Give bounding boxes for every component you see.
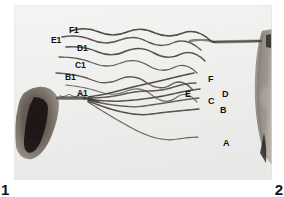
micrograph-image xyxy=(14,5,272,180)
figure-panel: F1 E1 D1 C1 B1 A1 F E D C B A 1 2 xyxy=(0,0,284,197)
fiber-label-A: A xyxy=(223,139,229,148)
fiber-label-D1: D1 xyxy=(77,44,87,53)
fiber-label-F1: F1 xyxy=(69,26,79,35)
fiber-label-B: B xyxy=(220,106,226,115)
fiber-label-F: F xyxy=(208,75,213,84)
fiber-label-E: E xyxy=(185,90,191,99)
panel-number-2: 2 xyxy=(275,182,283,197)
fiber-label-C: C xyxy=(208,97,214,106)
fiber-label-A1: A1 xyxy=(77,89,87,98)
fiber-label-C1: C1 xyxy=(75,61,85,70)
fiber-label-B1: B1 xyxy=(65,73,75,82)
fiber-label-E1: E1 xyxy=(51,36,61,45)
panel-number-1: 1 xyxy=(1,182,9,197)
fiber-label-D: D xyxy=(222,90,228,99)
photographic-plate: F1 E1 D1 C1 B1 A1 F E D C B A xyxy=(14,5,272,180)
